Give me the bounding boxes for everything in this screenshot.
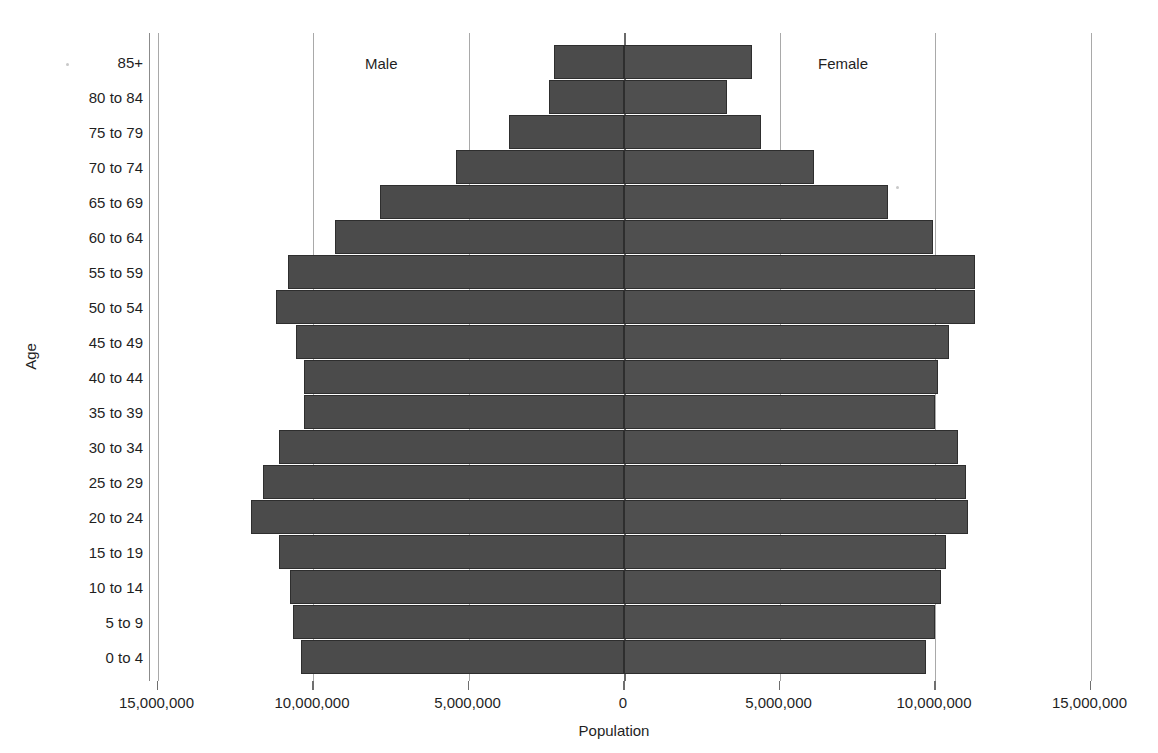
plot-area: Male Female: [149, 33, 1088, 681]
bar-row: [150, 640, 1088, 675]
bar-female-15-to-19[interactable]: [624, 535, 946, 569]
bar-female-65-to-69[interactable]: [624, 185, 888, 219]
x-axis-tick: [468, 681, 470, 690]
bar-male-50-to-54[interactable]: [276, 290, 624, 324]
scan-bleed-artifact: [200, 0, 960, 12]
bar-row: [150, 45, 1088, 80]
bar-female-75-to-79[interactable]: [624, 115, 761, 149]
x-axis-tick: [312, 681, 314, 690]
y-axis-tick-labels: 85+80 to 8475 to 7970 to 7465 to 6960 to…: [40, 45, 143, 675]
y-axis-tick-label: 0 to 4: [40, 640, 143, 675]
bar-male-70-to-74[interactable]: [456, 150, 624, 184]
bar-female-50-to-54[interactable]: [624, 290, 975, 324]
bar-row: [150, 605, 1088, 640]
bar-male-60-to-64[interactable]: [335, 220, 624, 254]
series-label-male: Male: [365, 55, 398, 72]
bar-female-55-to-59[interactable]: [624, 255, 975, 289]
bar-female-80-to-84[interactable]: [624, 80, 727, 114]
y-axis-tick-label: 25 to 29: [40, 465, 143, 500]
bar-male-15-to-19[interactable]: [279, 535, 624, 569]
x-axis-title-text: Population: [579, 722, 650, 739]
population-pyramid-chart: Age 85+80 to 8475 to 7970 to 7465 to 696…: [0, 0, 1158, 753]
bar-male-25-to-29[interactable]: [263, 465, 624, 499]
bar-female-45-to-49[interactable]: [624, 325, 949, 359]
y-axis-tick-label: 60 to 64: [40, 220, 143, 255]
bar-male-10-to-14[interactable]: [290, 570, 624, 604]
bar-row: [150, 500, 1088, 535]
bar-female-20-to-24[interactable]: [624, 500, 968, 534]
x-axis-title: Population: [44, 722, 1158, 739]
bar-female-5-to-9[interactable]: [624, 605, 935, 639]
bar-female-85plus[interactable]: [624, 45, 752, 79]
y-axis-tick-label: 75 to 79: [40, 115, 143, 150]
bar-row: [150, 150, 1088, 185]
x-axis-tick-label: 0: [543, 694, 703, 711]
bar-row: [150, 360, 1088, 395]
x-axis-tick-label: 5,000,000: [388, 694, 548, 711]
bar-male-20-to-24[interactable]: [251, 500, 624, 534]
y-axis-tick-label: 15 to 19: [40, 535, 143, 570]
x-axis-tick: [934, 681, 936, 690]
bar-female-60-to-64[interactable]: [624, 220, 933, 254]
y-axis-tick-label: 30 to 34: [40, 430, 143, 465]
bar-male-5-to-9[interactable]: [293, 605, 624, 639]
bar-row: [150, 570, 1088, 605]
y-axis-tick-label: 55 to 59: [40, 255, 143, 290]
bar-male-80-to-84[interactable]: [549, 80, 624, 114]
y-axis-tick-label: 5 to 9: [40, 605, 143, 640]
bar-row: [150, 535, 1088, 570]
bar-row: [150, 325, 1088, 360]
gridline: [1091, 33, 1092, 681]
bar-male-75-to-79[interactable]: [509, 115, 624, 149]
bar-row: [150, 115, 1088, 150]
y-axis-tick-label: 80 to 84: [40, 80, 143, 115]
bar-row: [150, 255, 1088, 290]
bar-male-0-to-4[interactable]: [301, 640, 624, 674]
y-axis-tick-label: 10 to 14: [40, 570, 143, 605]
bar-row: [150, 220, 1088, 255]
bar-female-30-to-34[interactable]: [624, 430, 958, 464]
bar-male-30-to-34[interactable]: [279, 430, 624, 464]
bar-male-65-to-69[interactable]: [380, 185, 624, 219]
bar-row: [150, 430, 1088, 465]
bar-row: [150, 395, 1088, 430]
x-axis-tick: [1090, 681, 1092, 690]
y-axis-tick-label: 50 to 54: [40, 290, 143, 325]
x-axis-ticks: [149, 681, 1087, 691]
x-axis-tick-label: 15,000,000: [77, 694, 237, 711]
bar-row: [150, 465, 1088, 500]
y-axis-title: Age: [22, 337, 39, 377]
bar-row: [150, 185, 1088, 220]
x-axis-tick-label: 10,000,000: [232, 694, 392, 711]
x-axis-tick-label: 5,000,000: [699, 694, 859, 711]
bar-male-55-to-59[interactable]: [288, 255, 624, 289]
bar-female-35-to-39[interactable]: [624, 395, 935, 429]
bar-female-40-to-44[interactable]: [624, 360, 938, 394]
x-axis-tick-labels: 15,000,00010,000,0005,000,00005,000,0001…: [0, 694, 1158, 716]
bar-series-container: [150, 45, 1088, 675]
bar-row: [150, 290, 1088, 325]
y-axis-tick-label: 65 to 69: [40, 185, 143, 220]
bar-male-35-to-39[interactable]: [304, 395, 624, 429]
x-axis-tick-label: 10,000,000: [854, 694, 1014, 711]
bar-row: [150, 80, 1088, 115]
series-label-female: Female: [818, 55, 868, 72]
bar-female-70-to-74[interactable]: [624, 150, 814, 184]
bar-male-40-to-44[interactable]: [304, 360, 624, 394]
x-axis-tick: [623, 681, 625, 690]
x-axis-tick-label: 15,000,000: [1010, 694, 1158, 711]
bar-male-45-to-49[interactable]: [296, 325, 624, 359]
y-axis-tick-label: 20 to 24: [40, 500, 143, 535]
y-axis-tick-label: 40 to 44: [40, 360, 143, 395]
y-axis-tick-label: 45 to 49: [40, 325, 143, 360]
plot-inner: Male Female: [150, 33, 1088, 681]
bar-female-25-to-29[interactable]: [624, 465, 966, 499]
x-axis-tick: [157, 681, 159, 690]
bar-male-85plus[interactable]: [554, 45, 624, 79]
y-axis-tick-label: 70 to 74: [40, 150, 143, 185]
x-axis-tick: [779, 681, 781, 690]
y-axis-tick-label: 85+: [40, 45, 143, 80]
bar-female-0-to-4[interactable]: [624, 640, 926, 674]
y-axis-tick-label: 35 to 39: [40, 395, 143, 430]
bar-female-10-to-14[interactable]: [624, 570, 941, 604]
